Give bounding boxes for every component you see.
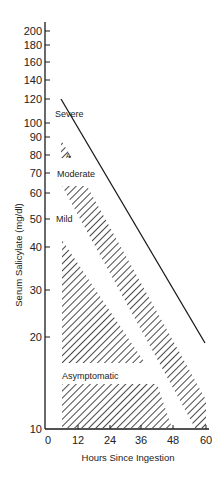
y-tick-70: 70 [30, 167, 42, 179]
y-ticks [45, 31, 50, 337]
y-tick-140: 140 [24, 74, 42, 86]
label-moderate: Moderate [57, 169, 95, 179]
y-tick-60: 60 [30, 187, 42, 199]
x-tick-labels: 0 12 24 36 48 60 [45, 434, 212, 446]
y-tick-100: 100 [24, 117, 42, 129]
label-mild: Mild [56, 214, 73, 224]
x-tick-12: 12 [72, 434, 84, 446]
y-tick-90: 90 [30, 131, 42, 143]
label-asymptomatic: Asymptomatic [62, 371, 119, 381]
y-axis-label: Serum Salicylate (mg/dl) [13, 203, 24, 306]
hatched-regions [61, 140, 206, 428]
x-tick-60: 60 [200, 434, 212, 446]
y-tick-80: 80 [30, 149, 42, 161]
x-tick-48: 48 [167, 434, 179, 446]
y-tick-30: 30 [30, 284, 42, 296]
y-tick-20: 20 [30, 331, 42, 343]
label-small-a: A [66, 152, 71, 159]
y-tick-120: 120 [24, 93, 42, 105]
y-tick-200: 200 [24, 25, 42, 37]
salicylate-nomogram-chart: 200 180 160 140 120 100 90 80 70 60 50 4… [0, 0, 221, 480]
y-tick-10: 10 [30, 423, 42, 435]
y-tick-40: 40 [30, 241, 42, 253]
x-tick-36: 36 [135, 434, 147, 446]
x-axis-label: Hours Since Ingestion [82, 452, 175, 463]
y-tick-180: 180 [24, 39, 42, 51]
x-tick-0: 0 [45, 434, 51, 446]
y-tick-labels: 200 180 160 140 120 100 90 80 70 60 50 4… [24, 25, 42, 435]
region-asymptomatic-lower [62, 384, 172, 428]
x-tick-24: 24 [104, 434, 116, 446]
y-tick-160: 160 [24, 56, 42, 68]
y-tick-50: 50 [30, 213, 42, 225]
label-severe: Severe [55, 109, 84, 119]
